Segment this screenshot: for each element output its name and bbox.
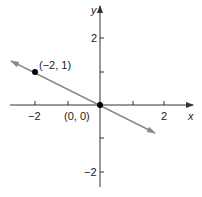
y-axis-label: y: [90, 4, 98, 16]
x-tick-label-neg2: −2: [28, 110, 41, 122]
point-label-origin: (0, 0): [64, 110, 90, 122]
x-tick-label-2: 2: [161, 110, 167, 122]
coordinate-plot: −2 2 2 −2 x y (−2, 1) (0, 0): [0, 0, 202, 197]
y-tick-label-neg2: −2: [84, 166, 97, 178]
point-label-neg2-1: (−2, 1): [39, 59, 71, 71]
point-neg2-1: [32, 69, 38, 75]
point-origin: [97, 102, 103, 108]
y-tick-label-2: 2: [91, 32, 97, 44]
x-axis-label: x: [187, 110, 194, 122]
